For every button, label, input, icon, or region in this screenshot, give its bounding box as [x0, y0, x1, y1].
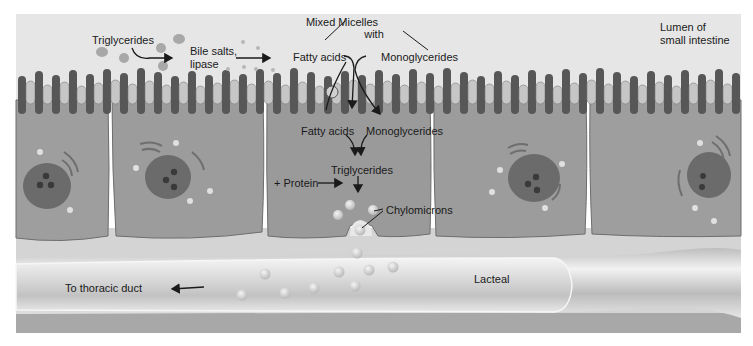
- microvillus: [613, 72, 621, 114]
- microvillus: [596, 68, 604, 114]
- microvillus: [77, 86, 86, 104]
- label-triglycerides-lumen: Triglycerides: [92, 34, 154, 46]
- microvillus: [18, 76, 26, 114]
- label-bile-salts: Bile salts,: [190, 45, 237, 57]
- microvillus: [409, 69, 417, 114]
- label-chylomicrons: Chylomicrons: [386, 204, 453, 216]
- microvillus: [94, 83, 103, 104]
- microvillus: [647, 71, 655, 114]
- microvillus: [205, 75, 213, 114]
- microvillus: [188, 71, 196, 114]
- microvillus: [604, 84, 613, 104]
- label-fatty-acids-lumen: Fatty acids: [293, 51, 347, 63]
- microvillus: [196, 86, 205, 104]
- microvillus: [222, 70, 230, 114]
- microvillus: [290, 68, 298, 114]
- microvillus: [281, 85, 290, 104]
- microvillus: [536, 82, 545, 104]
- microvillus: [26, 81, 35, 104]
- label-micelles-with: with: [363, 28, 384, 40]
- microvillus: [426, 73, 434, 114]
- label-thoracic-duct: To thoracic duct: [65, 282, 142, 294]
- microvillus: [400, 85, 409, 104]
- microvillus: [162, 85, 171, 104]
- microvillus: [443, 68, 451, 114]
- microvillus: [417, 82, 426, 104]
- microvillus: [230, 80, 239, 104]
- microvillus: [689, 83, 698, 104]
- microvillus: [128, 84, 137, 104]
- microvillus: [570, 83, 579, 104]
- microvillus: [698, 74, 706, 114]
- label-protein: + Protein: [274, 177, 318, 189]
- microvillus: [392, 74, 400, 114]
- microvillus: [375, 70, 383, 114]
- microvillus: [383, 81, 392, 104]
- microvillus: [553, 86, 562, 104]
- microvillus: [630, 76, 638, 114]
- microvillus: [621, 81, 630, 104]
- label-lipase: lipase: [190, 58, 219, 70]
- microvillus: [494, 71, 502, 114]
- microvillus: [655, 82, 664, 104]
- microvillus: [35, 71, 43, 114]
- microvillus: [86, 74, 94, 114]
- microvillus: [587, 80, 596, 104]
- microvillus: [154, 72, 162, 114]
- microvillus: [681, 70, 689, 114]
- label-fatty-acids-cell: Fatty acids: [301, 125, 355, 137]
- microvillus: [307, 72, 315, 114]
- microvillus: [468, 80, 477, 104]
- microvillus: [179, 82, 188, 104]
- microvillus: [579, 73, 587, 114]
- microvillus: [60, 82, 69, 104]
- microvillus: [103, 69, 111, 114]
- microvillus: [672, 86, 681, 104]
- microvillus: [111, 80, 120, 104]
- connective-tissue: [16, 313, 741, 333]
- microvillus: [451, 83, 460, 104]
- microvillus: [43, 85, 52, 104]
- microvillus: [511, 75, 519, 114]
- label-monoglycerides-cell: Monoglycerides: [366, 125, 444, 137]
- label-monoglycerides-lumen: Monoglycerides: [381, 51, 459, 63]
- microvillus: [256, 69, 264, 114]
- microvillus: [137, 68, 145, 114]
- microvillus: [264, 81, 273, 104]
- microvillus: [341, 71, 349, 114]
- microvillus: [545, 74, 553, 114]
- microvillus: [715, 69, 723, 114]
- microvillus: [664, 75, 672, 114]
- microvillus: [434, 86, 443, 104]
- microvillus: [171, 76, 179, 114]
- microvillus: [528, 70, 536, 114]
- microvillus: [69, 70, 77, 114]
- microvillus: [502, 81, 511, 104]
- label-lumen-line1: Lumen of: [660, 21, 707, 33]
- microvillus: [723, 84, 732, 104]
- lipid-absorption-diagram: Triglycerides Bile salts, lipase Mixed M…: [0, 0, 753, 346]
- microvillus: [239, 74, 247, 114]
- microvillus: [213, 83, 222, 104]
- microvillus: [732, 73, 740, 114]
- microvillus: [519, 85, 528, 104]
- microvillus: [120, 73, 128, 114]
- microvillus: [706, 80, 715, 104]
- microvillus: [247, 84, 256, 104]
- microvillus: [638, 85, 647, 104]
- microvillus: [52, 75, 60, 114]
- label-lacteal: Lacteal: [474, 273, 509, 285]
- figure: Triglycerides Bile salts, lipase Mixed M…: [0, 0, 753, 346]
- microvillus: [315, 86, 324, 104]
- microvillus: [460, 72, 468, 114]
- microvillus: [298, 82, 307, 104]
- microvillus: [485, 84, 494, 104]
- microvillus: [273, 73, 281, 114]
- microvillus: [477, 76, 485, 114]
- microvillus: [562, 69, 570, 114]
- microvillus: [145, 81, 154, 104]
- label-lumen-line2: small intestine: [660, 34, 730, 46]
- label-triglycerides-cell: Triglycerides: [331, 164, 393, 176]
- label-mixed-micelles: Mixed Micelles: [306, 16, 379, 28]
